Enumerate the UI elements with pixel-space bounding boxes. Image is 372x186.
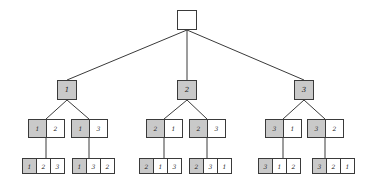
node-cell: 2: [36, 158, 51, 174]
node-cell: 3: [207, 119, 226, 138]
node-cell: 3: [312, 158, 327, 174]
node-cell: 3: [50, 158, 65, 174]
leaf-node-231: 2 3 1: [189, 158, 232, 174]
leaf-node-312: 3 1 2: [258, 158, 301, 174]
node-cell: 2: [286, 158, 301, 174]
node-cell: 1: [272, 158, 287, 174]
node-cell: 3: [307, 119, 326, 138]
node-cell: 1: [57, 80, 77, 100]
level2-node-23: 2 3: [189, 119, 226, 138]
node-cell: 2: [139, 158, 154, 174]
node-cell: 1: [283, 119, 302, 138]
node-cell: 1: [28, 119, 47, 138]
node-cell: 3: [167, 158, 182, 174]
node-cell: 3: [86, 158, 101, 174]
leaf-node-321: 3 2 1: [312, 158, 355, 174]
node-cell: 2: [100, 158, 115, 174]
level1-node-2: 2: [177, 80, 197, 100]
node-cell: 1: [22, 158, 37, 174]
level2-node-12: 1 2: [28, 119, 65, 138]
level1-node-1: 1: [57, 80, 77, 100]
node-cell: 1: [71, 119, 90, 138]
node-cell: 1: [340, 158, 355, 174]
node-cell: 1: [217, 158, 232, 174]
node-cell: 2: [177, 80, 197, 100]
node-cell: 3: [258, 158, 273, 174]
node-cell: 2: [325, 119, 344, 138]
node-cell: 3: [265, 119, 284, 138]
level2-node-32: 3 2: [307, 119, 344, 138]
node-cell: 1: [72, 158, 87, 174]
leaf-node-213: 2 1 3: [139, 158, 182, 174]
node-cell: 3: [294, 80, 314, 100]
node-cell: 3: [89, 119, 108, 138]
node-cell: 2: [46, 119, 65, 138]
level1-node-3: 3: [294, 80, 314, 100]
level2-node-13: 1 3: [71, 119, 108, 138]
leaf-node-123: 1 2 3: [22, 158, 65, 174]
node-cell: 1: [164, 119, 183, 138]
node-cell: 2: [326, 158, 341, 174]
root-node: [177, 10, 197, 30]
node-cell: 2: [189, 158, 204, 174]
node-cell: 1: [153, 158, 168, 174]
node-cell: 3: [203, 158, 218, 174]
leaf-node-132: 1 3 2: [72, 158, 115, 174]
node-cell: 2: [189, 119, 208, 138]
level2-node-31: 3 1: [265, 119, 302, 138]
level2-node-21: 2 1: [146, 119, 183, 138]
node-cell: 2: [146, 119, 165, 138]
root-cell: [177, 10, 197, 30]
